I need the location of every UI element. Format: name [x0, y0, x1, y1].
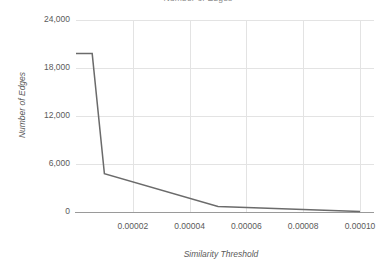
gridlines-horizontal — [76, 21, 374, 165]
data-line-number-of-edges — [76, 54, 360, 212]
plot-area — [0, 0, 387, 271]
chart-container: Number of Edges Number of Edges Similari… — [0, 0, 387, 271]
data-series-group — [76, 54, 360, 212]
